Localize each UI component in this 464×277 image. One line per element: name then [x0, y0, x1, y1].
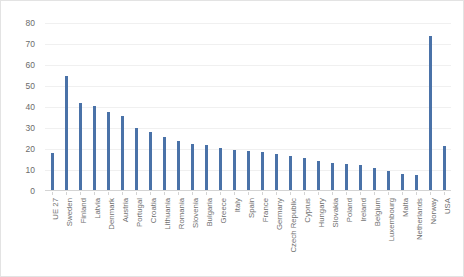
x-tick-mark: [332, 192, 333, 195]
bar: [121, 116, 124, 191]
x-tick-mark: [360, 192, 361, 195]
y-axis-tick-label: 50: [26, 82, 35, 91]
bar-slot: [325, 23, 339, 191]
bars-series: [45, 23, 451, 191]
bar-slot: [437, 23, 451, 191]
bar-slot: [283, 23, 297, 191]
x-tick-mark: [66, 192, 67, 195]
x-tick-mark: [304, 192, 305, 195]
bar: [275, 154, 278, 191]
bar-slot: [199, 23, 213, 191]
bar-slot: [213, 23, 227, 191]
x-tick-mark: [192, 192, 193, 195]
bar-slot: [367, 23, 381, 191]
x-tick-mark: [136, 192, 137, 195]
bar-slot: [45, 23, 59, 191]
bar: [247, 151, 250, 191]
x-tick-slot: Germany: [269, 193, 283, 275]
bar: [289, 156, 292, 191]
x-tick-mark: [388, 192, 389, 195]
x-tick-mark: [262, 192, 263, 195]
x-tick-mark: [178, 192, 179, 195]
x-tick-mark: [150, 192, 151, 195]
x-tick-slot: Belgium: [367, 193, 381, 275]
x-tick-slot: Romania: [171, 193, 185, 275]
bar-slot: [157, 23, 171, 191]
bar-slot: [101, 23, 115, 191]
x-tick-mark: [276, 192, 277, 195]
y-axis-tick-label: 80: [26, 19, 35, 28]
x-tick-slot: Italy: [227, 193, 241, 275]
bar: [177, 141, 180, 191]
bar: [191, 144, 194, 191]
x-tick-slot: Bulgaria: [199, 193, 213, 275]
x-tick-mark: [80, 192, 81, 195]
bar: [233, 150, 236, 191]
x-axis-tick-label: USA: [444, 198, 452, 214]
bar-slot: [115, 23, 129, 191]
bar: [429, 36, 432, 191]
x-tick-mark: [248, 192, 249, 195]
bar-slot: [185, 23, 199, 191]
bar: [331, 163, 334, 191]
x-tick-slot: Netherlands: [409, 193, 423, 275]
y-axis-tick-label: 60: [26, 61, 35, 70]
x-tick-slot: Finland: [73, 193, 87, 275]
bar: [107, 112, 110, 191]
bar: [149, 132, 152, 191]
x-tick-mark: [52, 192, 53, 195]
bar: [65, 76, 68, 192]
x-tick-mark: [346, 192, 347, 195]
x-tick-slot: Ireland: [353, 193, 367, 275]
bar: [373, 168, 376, 191]
x-tick-mark: [444, 192, 445, 195]
x-tick-slot: Spain: [241, 193, 255, 275]
bar: [79, 103, 82, 191]
x-tick-slot: Croatia: [143, 193, 157, 275]
x-tick-slot: Norway: [423, 193, 437, 275]
bar: [345, 164, 348, 191]
bar-slot: [311, 23, 325, 191]
x-tick-mark: [94, 192, 95, 195]
bar-slot: [73, 23, 87, 191]
bar-slot: [255, 23, 269, 191]
x-tick-mark: [290, 192, 291, 195]
x-tick-mark: [122, 192, 123, 195]
y-axis-tick-label: 30: [26, 124, 35, 133]
y-axis-tick-label: 40: [26, 103, 35, 112]
x-tick-slot: Austria: [115, 193, 129, 275]
x-tick-slot: Lithuania: [157, 193, 171, 275]
x-tick-mark: [430, 192, 431, 195]
bar: [387, 171, 390, 191]
bar: [163, 137, 166, 191]
x-tick-mark: [234, 192, 235, 195]
x-tick-mark: [206, 192, 207, 195]
bar-slot: [395, 23, 409, 191]
x-tick-mark: [164, 192, 165, 195]
bar: [93, 106, 96, 191]
bar: [359, 165, 362, 191]
x-tick-slot: Hungary: [311, 193, 325, 275]
x-tick-slot: Malta: [395, 193, 409, 275]
y-axis-tick-label: 70: [26, 40, 35, 49]
bar-slot: [409, 23, 423, 191]
x-tick-slot: USA: [437, 193, 451, 275]
bar: [303, 158, 306, 191]
x-axis-line: [45, 190, 451, 191]
bar: [317, 161, 320, 191]
x-tick-slot: Portugal: [129, 193, 143, 275]
bar-slot: [241, 23, 255, 191]
x-tick-mark: [220, 192, 221, 195]
bar-slot: [87, 23, 101, 191]
bar: [135, 128, 138, 191]
x-tick-slot: Slovenia: [185, 193, 199, 275]
bar-slot: [339, 23, 353, 191]
x-tick-slot: Latvia: [87, 193, 101, 275]
x-tick-mark: [416, 192, 417, 195]
x-tick-slot: Luxembourg: [381, 193, 395, 275]
bar: [415, 175, 418, 191]
bar-slot: [129, 23, 143, 191]
x-tick-slot: France: [255, 193, 269, 275]
y-axis-tick-label: 20: [26, 145, 35, 154]
bar-slot: [423, 23, 437, 191]
